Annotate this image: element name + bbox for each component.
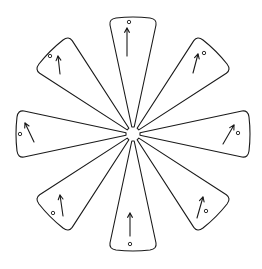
small-circle-icon xyxy=(48,54,51,57)
small-circle-icon xyxy=(18,132,21,135)
petals-group xyxy=(16,17,250,251)
small-circle-icon xyxy=(128,242,131,245)
small-circle-icon xyxy=(236,131,239,134)
small-circle-icon xyxy=(202,51,205,54)
small-circle-icon xyxy=(51,211,54,214)
small-circle-icon xyxy=(204,209,207,212)
small-circle-icon xyxy=(127,20,130,23)
petal-diagram xyxy=(0,0,262,269)
